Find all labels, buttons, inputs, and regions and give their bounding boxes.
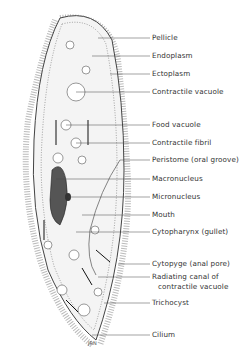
label-contractile-vacuole: contractile vacuole: [158, 283, 228, 291]
label-ectoplasm: Ectoplasm: [152, 70, 190, 78]
artist-signature: JRN: [88, 340, 97, 346]
label-contractile-vacuole: Contractile vacuole: [152, 88, 224, 96]
label-radiating-canal-of: Radiating canal of: [152, 273, 219, 281]
label-micronucleus: Micronucleus: [152, 193, 200, 201]
label-food-vacuole: Food vacuole: [152, 121, 201, 129]
label-peristome-oral-groove: Peristome (oral groove): [152, 156, 239, 164]
label-cytopharynx-gullet: Cytopharynx (gullet): [152, 228, 228, 236]
label-trichocyst: Trichocyst: [152, 299, 189, 307]
label-cilium: Cilium: [152, 331, 175, 339]
paramecium-illustration: [0, 0, 251, 355]
label-macronucleus: Macronucleus: [152, 175, 203, 183]
label-endoplasm: Endoplasm: [152, 52, 193, 60]
cell-body-outline: [33, 16, 124, 340]
label-contractile-fibril: Contractile fibril: [152, 139, 211, 147]
label-cytopyge-anal-pore: Cytopyge (anal pore): [152, 260, 230, 268]
label-pellicle: Pellicle: [152, 34, 178, 42]
label-mouth: Mouth: [152, 211, 175, 219]
